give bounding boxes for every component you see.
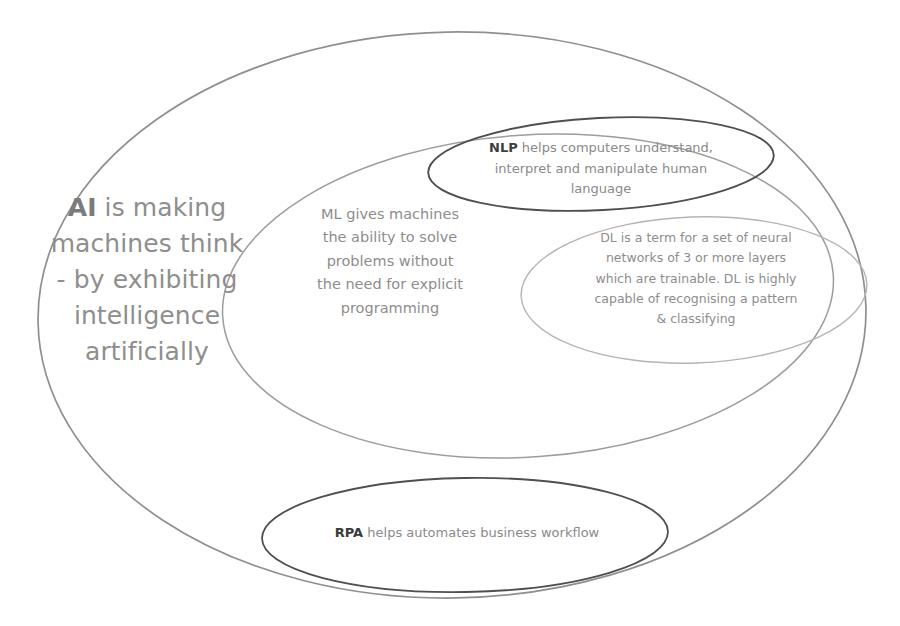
ml-line-3: problems without [292, 250, 488, 273]
ai-line-2: machines think [38, 226, 256, 262]
nlp-line-3: language [448, 179, 754, 200]
nlp-line-1: NLP helps computers understand, [448, 138, 754, 159]
label-dl: DL is a term for a set of neural network… [552, 228, 840, 329]
ai-line-1: AI is making [38, 190, 256, 226]
label-rpa: RPA helps automates business workflow [282, 523, 652, 543]
dl-line-2: networks of 3 or more layers [552, 248, 840, 268]
label-nlp: NLP helps computers understand, interpre… [448, 138, 754, 200]
ai-line-5: artificially [38, 334, 256, 370]
ml-line-4: the need for explicit [292, 273, 488, 296]
rpa-line-1: RPA helps automates business workflow [282, 523, 652, 543]
ml-line-1: ML gives machines [292, 203, 488, 226]
nlp-term: NLP [489, 140, 518, 155]
ml-line-5: programming [292, 297, 488, 320]
nlp-line-1-rest: helps computers understand, [518, 140, 713, 155]
ml-line-2: the ability to solve [292, 226, 488, 249]
ai-line-4: intelligence [38, 298, 256, 334]
dl-line-4: capable of recognising a pattern [552, 289, 840, 309]
ai-term: AI [68, 193, 97, 222]
dl-line-3: which are trainable. DL is highly [552, 269, 840, 289]
rpa-term: RPA [335, 525, 363, 540]
venn-diagram-canvas: AI is making machines think - by exhibit… [0, 0, 900, 626]
ai-line-3: - by exhibiting [38, 262, 256, 298]
label-ml: ML gives machines the ability to solve p… [292, 203, 488, 320]
rpa-line-1-rest: helps automates business workflow [363, 525, 599, 540]
label-ai: AI is making machines think - by exhibit… [38, 190, 256, 370]
nlp-line-2: interpret and manipulate human [448, 159, 754, 180]
ai-line-1-rest: is making [97, 193, 227, 222]
dl-line-5: & classifying [552, 309, 840, 329]
dl-line-1: DL is a term for a set of neural [552, 228, 840, 248]
